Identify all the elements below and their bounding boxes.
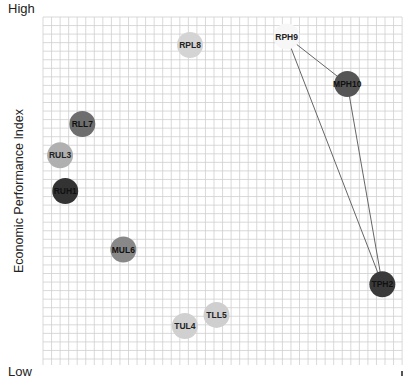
bubble-rph9: RPH9 bbox=[274, 24, 300, 50]
bubble-label: TUL4 bbox=[174, 321, 196, 331]
bubble-ruh1: RUH1 bbox=[52, 178, 78, 204]
bubble-rul3: RUL3 bbox=[47, 142, 73, 168]
bubble-mph10: MPH10 bbox=[333, 71, 362, 97]
bubble-rll7: RLL7 bbox=[69, 111, 95, 137]
bubble-tph2: TPH2 bbox=[369, 271, 395, 297]
bubble-label: TPH2 bbox=[371, 279, 393, 289]
bubbles: RPL8RPH9MPH10RLL7RUL3RUH1MUL6TPH2TLL5TUL… bbox=[47, 24, 395, 339]
bubble-label: MUL6 bbox=[112, 245, 135, 255]
bubble-label: RPH9 bbox=[275, 32, 298, 42]
bubble-label: RUL3 bbox=[49, 150, 71, 160]
chart-plot-area: RPL8RPH9MPH10RLL7RUL3RUH1MUL6TPH2TLL5TUL… bbox=[0, 0, 405, 379]
bubble-tll5: TLL5 bbox=[204, 302, 230, 328]
bubble-label: MPH10 bbox=[333, 79, 362, 89]
bubble-label: RPL8 bbox=[179, 40, 201, 50]
bubble-rpl8: RPL8 bbox=[177, 32, 203, 58]
bubble-mul6: MUL6 bbox=[110, 237, 136, 263]
bubble-label: RUH1 bbox=[54, 186, 77, 196]
bubble-tul4: TUL4 bbox=[172, 313, 198, 339]
bubble-label: RLL7 bbox=[72, 119, 94, 129]
bubble-label: TLL5 bbox=[206, 310, 227, 320]
